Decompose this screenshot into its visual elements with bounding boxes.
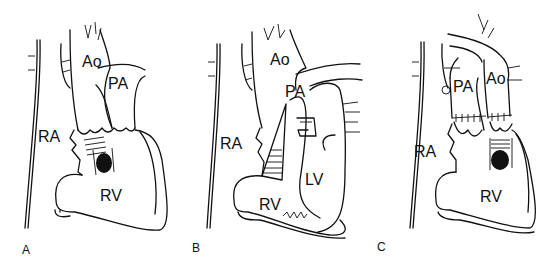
label-aorta-b: Ao	[270, 52, 290, 68]
label-aorta-c: Ao	[486, 71, 506, 87]
label-right-ventricle-b: RV	[259, 197, 281, 213]
label-right-atrium-a: RA	[38, 129, 60, 145]
label-right-atrium-b: RA	[220, 136, 242, 152]
label-pulmonary-artery-c: PA	[453, 79, 473, 95]
label-pulmonary-artery-a: PA	[108, 76, 128, 92]
label-aorta-a: Ao	[82, 54, 102, 70]
label-right-atrium-c: RA	[414, 144, 436, 160]
panel-label-a: A	[22, 244, 30, 256]
panel-c-drawing	[410, 14, 535, 233]
label-left-ventricle-b: LV	[305, 172, 323, 188]
panel-label-b: B	[192, 242, 200, 254]
label-right-ventricle-a: RV	[100, 188, 122, 204]
panel-label-c: C	[377, 241, 386, 253]
label-pulmonary-artery-b: PA	[285, 84, 305, 100]
heart-surgery-diagram	[0, 0, 559, 269]
label-right-ventricle-c: RV	[480, 189, 502, 205]
